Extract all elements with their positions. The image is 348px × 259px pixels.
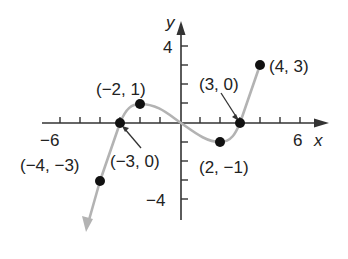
point-2m1 [215,137,225,147]
point-label-m30: (−3, 0) [110,152,160,171]
y-tick-label-neg4: −4 [146,191,165,210]
curve-end-arrow-icon [82,216,93,232]
y-axis-arrow-icon [177,21,186,35]
point-label-m21: (−2, 1) [96,80,146,99]
graph: y x −6 6 4 −4 (−2, 1) (3, 0) (4, 3) (−3,… [0,0,348,259]
point-label-m4m3: (−4, −3) [20,156,80,175]
point-label-43: (4, 3) [269,57,309,76]
x-axis-label: x [313,131,323,150]
y-tick-label-4: 4 [163,38,172,57]
point-30 [235,118,245,128]
x-axis-arrow-icon [314,119,329,128]
point-label-2m1: (2, −1) [199,158,249,177]
pointer-line-m30 [124,128,141,148]
point-label-30: (3, 0) [199,75,239,94]
point-m30 [115,118,125,128]
point-43 [255,60,265,70]
point-m4m3 [95,176,105,186]
pointer-line-30 [221,93,237,118]
x-tick-label-6: 6 [293,131,302,150]
point-m21 [135,99,145,109]
y-axis-label: y [165,13,176,32]
x-tick-label-neg6: −6 [40,131,59,150]
